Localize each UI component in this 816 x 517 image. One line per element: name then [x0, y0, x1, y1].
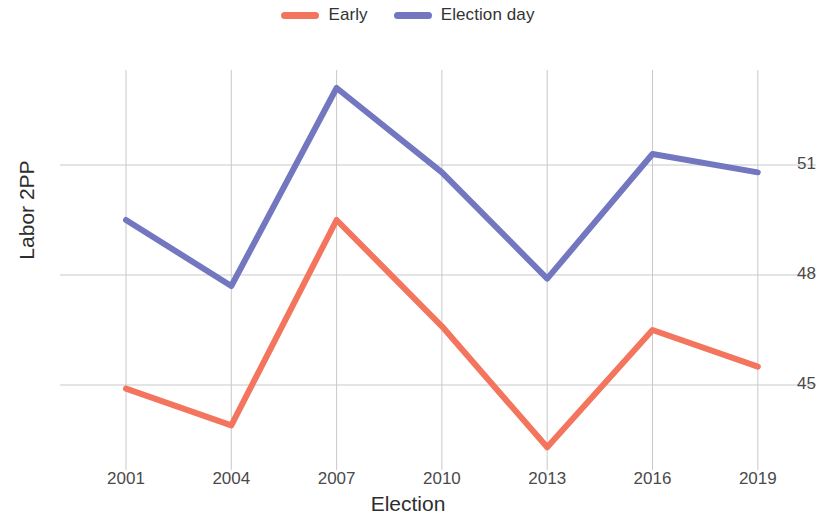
y-tick-label: 51	[774, 154, 816, 174]
plot-area: Labor 2PP Election 454851 20012004200720…	[0, 0, 816, 517]
x-tick-label: 2004	[191, 469, 271, 489]
x-axis-title: Election	[0, 492, 816, 516]
x-tick-label: 2001	[86, 469, 166, 489]
x-tick-label: 2007	[297, 469, 377, 489]
x-tick-label: 2013	[507, 469, 587, 489]
plot-svg	[0, 0, 816, 517]
x-tick-label: 2010	[402, 469, 482, 489]
line-chart: Early Election day Labor 2PP Election 45…	[0, 0, 816, 517]
grid-lines	[60, 70, 816, 470]
x-tick-label: 2019	[718, 469, 798, 489]
y-axis-title: Labor 2PP	[15, 135, 39, 285]
y-tick-label: 48	[774, 264, 816, 284]
x-tick-label: 2016	[613, 469, 693, 489]
y-tick-label: 45	[774, 374, 816, 394]
